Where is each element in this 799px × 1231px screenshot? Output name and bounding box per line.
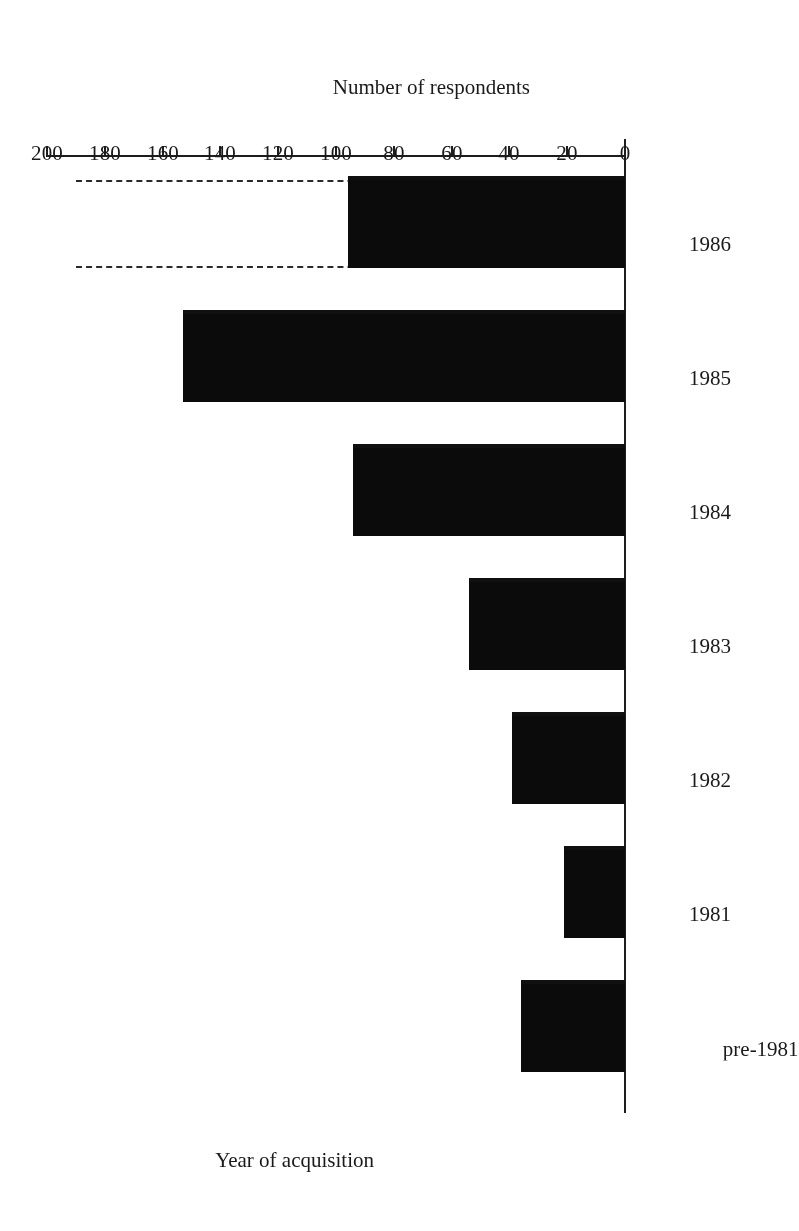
bar-row: [47, 314, 625, 402]
bar-1981: [564, 850, 625, 938]
bar-1985: [183, 314, 625, 402]
bar-baseline-shadow: [348, 176, 625, 180]
bar-1982: [512, 716, 625, 804]
category-label-1983: 1983: [689, 637, 731, 658]
bar-row: [47, 180, 625, 268]
bar-row: [47, 850, 625, 938]
value-axis-tick-label: 0: [620, 143, 631, 164]
bar-1986: [348, 180, 625, 268]
value-axis-tick-label: 140: [204, 143, 236, 164]
bar-baseline-shadow: [353, 444, 625, 448]
category-label-pre-1981: pre-1981: [723, 1039, 799, 1060]
bar-baseline-shadow: [469, 578, 625, 582]
value-axis-tick-label: 160: [147, 143, 179, 164]
value-axis-tick-label: 100: [320, 143, 352, 164]
bar-baseline-shadow: [521, 980, 625, 984]
bar-1983: [469, 582, 625, 670]
category-label-1986: 1986: [689, 235, 731, 256]
bar-baseline-shadow: [512, 712, 625, 716]
bar-1984: [353, 448, 625, 536]
value-axis-tick-label: 120: [262, 143, 294, 164]
category-label-1981: 1981: [689, 905, 731, 926]
value-axis-tick-label: 200: [31, 143, 63, 164]
value-axis-tick-label: 80: [383, 143, 404, 164]
bar-baseline-shadow: [183, 310, 625, 314]
value-axis-tick-label: 40: [499, 143, 520, 164]
bar-row: [47, 984, 625, 1072]
value-axis-title: Number of respondents: [333, 77, 530, 98]
bar-row: [47, 582, 625, 670]
value-axis-tick-label: 20: [557, 143, 578, 164]
bar-pre-1981: [521, 984, 625, 1072]
value-axis-tick-label: 60: [441, 143, 462, 164]
bar-baseline-shadow: [564, 846, 625, 850]
category-axis-title: Year of acquisition: [215, 1150, 374, 1171]
bar-row: [47, 448, 625, 536]
category-label-1982: 1982: [689, 771, 731, 792]
plot-area: 020406080100120140160180200 pre-19811981…: [47, 157, 625, 1095]
value-axis-tick-label: 180: [89, 143, 121, 164]
category-label-1985: 1985: [689, 369, 731, 390]
category-label-1984: 1984: [689, 503, 731, 524]
bar-row: [47, 716, 625, 804]
